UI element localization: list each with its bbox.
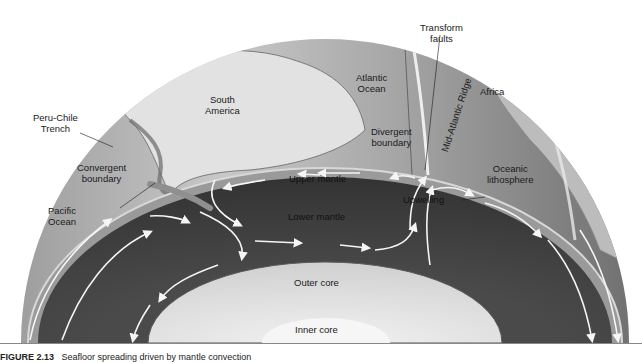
- label-inner-core: Inner core: [295, 325, 338, 336]
- label-atlantic-ocean: Atlantic Ocean: [356, 73, 387, 94]
- label-upper-mantle: Upper mantle: [289, 174, 346, 185]
- label-upwelling: Upwelling: [403, 195, 444, 206]
- label-lower-mantle: Lower mantle: [288, 212, 345, 223]
- label-outer-core: Outer core: [294, 278, 339, 289]
- label-pacific-ocean: Pacific Ocean: [48, 206, 76, 227]
- label-convergent-boundary: Convergent boundary: [77, 163, 126, 184]
- label-africa: Africa: [480, 87, 504, 98]
- caption-number: FIGURE 2.13: [0, 352, 54, 362]
- label-oceanic-lithosphere: Oceanic lithosphere: [487, 164, 533, 185]
- label-divergent-boundary: Divergent boundary: [371, 127, 412, 148]
- figure-caption: FIGURE 2.13 Seafloor spreading driven by…: [0, 352, 251, 362]
- label-south-america: South America: [205, 95, 240, 116]
- label-transform-faults: Transform faults: [420, 23, 463, 44]
- label-peru-chile-trench: Peru-Chile Trench: [33, 113, 78, 134]
- caption-text: Seafloor spreading driven by mantle conv…: [62, 352, 252, 362]
